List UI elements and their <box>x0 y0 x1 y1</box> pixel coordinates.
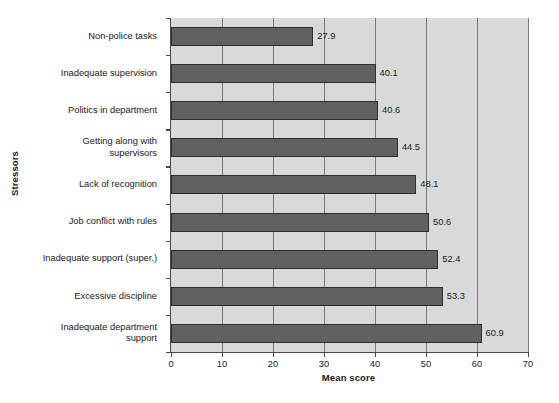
category-label: Lack of recognition <box>8 179 157 191</box>
bar[interactable] <box>171 138 398 157</box>
category-label: Excessive discipline <box>8 291 157 303</box>
y-axis-tick <box>166 166 171 167</box>
x-axis-tick <box>273 352 274 357</box>
bar-row: 53.3 <box>171 278 528 315</box>
x-axis-tick <box>324 352 325 357</box>
x-axis-tick <box>375 352 376 357</box>
x-axis-tick-label: 50 <box>411 359 441 369</box>
y-axis-tick <box>166 278 171 279</box>
bar-value-label: 53.3 <box>447 291 465 301</box>
y-axis-tick <box>166 241 171 242</box>
bar[interactable] <box>171 64 376 83</box>
category-label: Getting along with supervisors <box>8 136 157 159</box>
category-label: Politics in department <box>8 105 157 117</box>
plot-inner: 27.940.140.644.548.150.652.453.360.9 <box>171 18 528 352</box>
x-axis-tick-label: 60 <box>462 359 492 369</box>
bar-row: 52.4 <box>171 241 528 278</box>
bar-value-label: 60.9 <box>486 328 504 338</box>
y-axis-tick <box>166 204 171 205</box>
bar-row: 60.9 <box>171 315 528 352</box>
bar-row: 40.1 <box>171 55 528 92</box>
bar[interactable] <box>171 213 429 232</box>
y-axis-tick <box>166 18 171 19</box>
plot-area: 27.940.140.644.548.150.652.453.360.9 010… <box>170 18 528 353</box>
y-axis-tick <box>166 55 171 56</box>
bar[interactable] <box>171 27 313 46</box>
bar[interactable] <box>171 175 416 194</box>
bar-row: 27.9 <box>171 18 528 55</box>
y-axis-tick-labels: Non-police tasksInadequate supervisionPo… <box>8 18 163 352</box>
x-axis-title: Mean score <box>170 372 527 383</box>
bar-value-label: 40.6 <box>382 105 400 115</box>
x-axis-tick-label: 40 <box>360 359 390 369</box>
x-axis-tick-label: 0 <box>156 359 186 369</box>
bar-value-label: 40.1 <box>380 68 398 78</box>
x-axis-tick <box>426 352 427 357</box>
y-axis-tick <box>166 129 171 130</box>
category-label: Inadequate supervision <box>8 68 157 80</box>
bar-row: 44.5 <box>171 129 528 166</box>
bar[interactable] <box>171 324 482 343</box>
x-axis-tick-label: 20 <box>258 359 288 369</box>
bar-chart: Stressors Non-police tasksInadequate sup… <box>0 0 559 403</box>
bar-row: 48.1 <box>171 166 528 203</box>
category-label: Non-police tasks <box>8 31 157 43</box>
category-label: Job conflict with rules <box>8 216 157 228</box>
y-axis-tick <box>166 92 171 93</box>
bar[interactable] <box>171 250 438 269</box>
x-axis-tick <box>222 352 223 357</box>
x-axis-tick <box>171 352 172 357</box>
bar-value-label: 50.6 <box>433 217 451 227</box>
bar-value-label: 44.5 <box>402 142 420 152</box>
x-axis-tick-label: 10 <box>207 359 237 369</box>
category-label: Inadequate department support <box>8 322 157 345</box>
bar-value-label: 27.9 <box>317 31 335 41</box>
x-axis-tick-label: 30 <box>309 359 339 369</box>
bar-value-label: 48.1 <box>420 179 438 189</box>
y-axis-tick <box>166 315 171 316</box>
x-axis-tick <box>477 352 478 357</box>
bar[interactable] <box>171 101 378 120</box>
x-axis-tick-label: 70 <box>513 359 543 369</box>
bar[interactable] <box>171 287 443 306</box>
x-axis-tick <box>528 352 529 357</box>
bar-value-label: 52.4 <box>442 254 460 264</box>
category-label: Inadequate support (super.) <box>8 253 157 265</box>
bar-row: 40.6 <box>171 92 528 129</box>
bar-row: 50.6 <box>171 204 528 241</box>
